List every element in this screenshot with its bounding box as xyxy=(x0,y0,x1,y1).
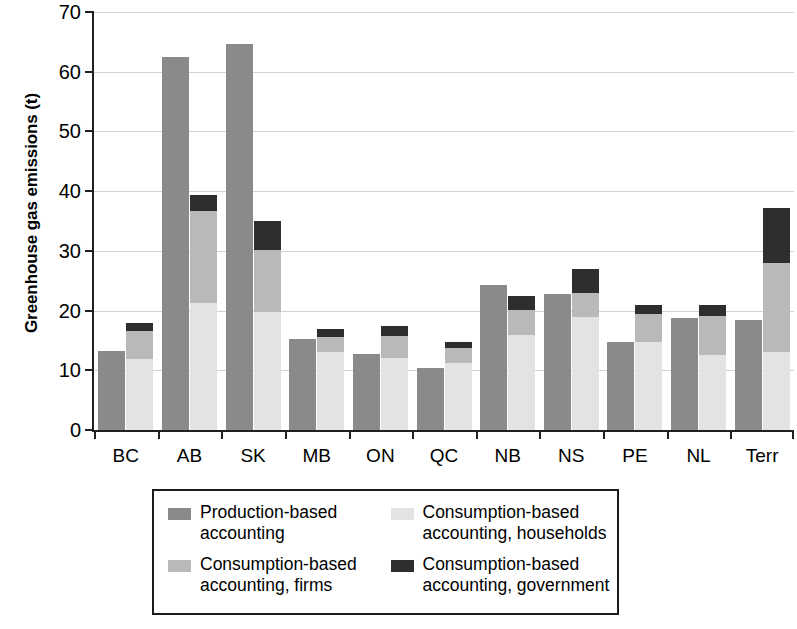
y-axis-tick xyxy=(85,250,94,252)
segment-households xyxy=(572,317,599,430)
x-axis-tick xyxy=(792,430,794,439)
bar-consumption-stack xyxy=(445,342,472,430)
segment-firms xyxy=(508,310,535,335)
segment-government xyxy=(254,221,281,250)
y-axis-tick-label: 0 xyxy=(70,419,81,442)
x-axis-tick xyxy=(94,430,96,439)
segment-firms xyxy=(317,337,344,353)
y-axis-tick xyxy=(85,190,94,192)
x-axis-tick xyxy=(349,430,351,439)
chart-figure: Greenhouse gas emissions (t) 01020304050… xyxy=(0,0,797,629)
y-axis-tick-label: 40 xyxy=(59,180,81,203)
bar-group xyxy=(735,12,790,430)
bar-consumption-stack xyxy=(254,221,281,430)
y-axis-tick-label: 60 xyxy=(59,60,81,83)
bar-group xyxy=(417,12,472,430)
segment-firms xyxy=(445,348,472,362)
segment-government xyxy=(381,326,408,336)
segment-households xyxy=(126,359,153,430)
y-axis-tick xyxy=(85,429,94,431)
segment-households xyxy=(445,363,472,430)
bar-consumption-stack xyxy=(381,326,408,430)
segment-households xyxy=(699,355,726,430)
segment-firms xyxy=(572,293,599,317)
x-axis-tick xyxy=(603,430,605,439)
bar-consumption-stack xyxy=(508,296,535,430)
y-axis-tick-label: 30 xyxy=(59,239,81,262)
segment-government xyxy=(190,195,217,211)
bar-consumption-stack xyxy=(699,305,726,430)
bar-group xyxy=(353,12,408,430)
bar-group xyxy=(480,12,535,430)
bar-production xyxy=(226,44,253,430)
segment-government xyxy=(317,329,344,337)
x-axis-tick xyxy=(730,430,732,439)
bar-production xyxy=(671,318,698,430)
x-axis-tick-label: NB xyxy=(494,445,520,467)
x-axis-tick-label: QC xyxy=(430,445,459,467)
segment-government xyxy=(763,208,790,262)
bar-consumption-stack xyxy=(763,208,790,430)
x-axis-tick xyxy=(667,430,669,439)
y-axis-tick-label: 20 xyxy=(59,299,81,322)
segment-households xyxy=(763,352,790,430)
legend-label: Consumption-based accounting, firms xyxy=(200,554,357,595)
bar-consumption-stack xyxy=(126,323,153,430)
legend-swatch-production xyxy=(168,508,191,520)
bar-production xyxy=(98,351,125,430)
plot-wrapper: 010203040506070BCABSKMBONQCNBNSPENLTerr xyxy=(92,12,792,430)
x-axis-tick-label: AB xyxy=(177,445,202,467)
segment-firms xyxy=(699,316,726,355)
x-axis-tick-label: BC xyxy=(113,445,139,467)
x-axis-tick xyxy=(221,430,223,439)
segment-firms xyxy=(635,314,662,342)
x-axis-tick xyxy=(476,430,478,439)
bar-consumption-stack xyxy=(635,305,662,430)
bar-group xyxy=(289,12,344,430)
bar-group xyxy=(544,12,599,430)
y-axis-tick xyxy=(85,11,94,13)
legend-item: Production-based accounting xyxy=(168,502,391,554)
y-axis-tick-label: 50 xyxy=(59,120,81,143)
bar-group xyxy=(226,12,281,430)
legend-item: Consumption-based accounting, government xyxy=(391,554,614,606)
segment-government xyxy=(508,296,535,310)
segment-households xyxy=(190,303,217,430)
x-axis-tick xyxy=(539,430,541,439)
segment-government xyxy=(635,305,662,313)
legend-swatch-government xyxy=(391,560,414,572)
segment-government xyxy=(699,305,726,316)
plot-area: 010203040506070BCABSKMBONQCNBNSPENLTerr xyxy=(92,12,794,432)
bar-consumption-stack xyxy=(190,195,217,430)
bar-production xyxy=(607,342,634,430)
segment-firms xyxy=(126,331,153,359)
x-axis-tick-label: Terr xyxy=(746,445,779,467)
bar-group xyxy=(162,12,217,430)
segment-firms xyxy=(381,336,408,358)
bar-group xyxy=(607,12,662,430)
y-axis-tick xyxy=(85,130,94,132)
legend-item: Consumption-based accounting, firms xyxy=(168,554,391,606)
x-axis-tick xyxy=(412,430,414,439)
segment-households xyxy=(254,312,281,430)
legend-swatch-households xyxy=(391,508,414,520)
x-axis-tick-label: SK xyxy=(240,445,265,467)
segment-households xyxy=(317,352,344,430)
legend-label: Production-based accounting xyxy=(200,502,337,543)
bar-production xyxy=(353,354,380,430)
segment-households xyxy=(635,342,662,430)
x-axis-tick-label: PE xyxy=(622,445,647,467)
y-axis-title: Greenhouse gas emissions (t) xyxy=(22,13,42,413)
x-axis-tick-label: ON xyxy=(366,445,395,467)
legend-label: Consumption-based accounting, government xyxy=(423,554,610,595)
x-axis-tick-label: MB xyxy=(302,445,331,467)
segment-government xyxy=(445,342,472,348)
segment-households xyxy=(508,335,535,430)
bar-production xyxy=(417,368,444,430)
segment-firms xyxy=(763,263,790,353)
legend-swatch-firms xyxy=(168,560,191,572)
bar-consumption-stack xyxy=(572,269,599,430)
segment-households xyxy=(381,358,408,430)
bar-production xyxy=(480,285,507,430)
y-axis-tick xyxy=(85,71,94,73)
